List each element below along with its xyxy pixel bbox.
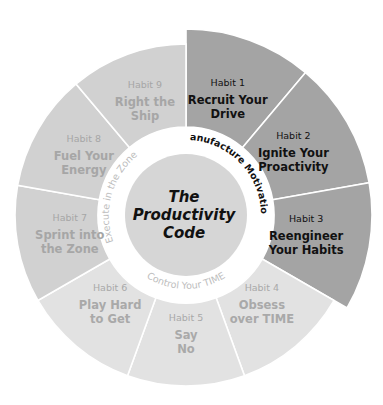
habit-title-line: Say — [174, 328, 198, 342]
habit-number: Habit 2 — [276, 130, 310, 141]
habit-number: Habit 1 — [211, 77, 245, 88]
habit-title-line: Right the — [115, 95, 175, 109]
habit-title-line: Ship — [131, 109, 160, 123]
center-title-line: The — [168, 188, 199, 206]
habit-title-line: Energy — [61, 163, 107, 177]
habit-number: Habit 6 — [93, 282, 127, 293]
habit-number: Habit 7 — [53, 212, 87, 223]
productivity-wheel: TheProductivityCode Manufacture Motivati… — [0, 0, 383, 405]
habit-number: Habit 4 — [245, 282, 279, 293]
habit-title-line: Fuel Your — [54, 149, 115, 163]
habit-title-line: Drive — [210, 107, 245, 121]
habit-title-line: the Zone — [41, 242, 99, 256]
habit-number: Habit 5 — [169, 312, 203, 323]
habit-title-line: Reengineer — [269, 229, 344, 243]
habit-title-line: No — [177, 342, 195, 356]
habit-number: Habit 8 — [67, 133, 101, 144]
habit-title-line: Your Habits — [268, 243, 344, 257]
habit-title-line: over TIME — [230, 312, 294, 326]
center-title-line: Code — [163, 224, 205, 242]
habit-title-line: Obsess — [239, 298, 285, 312]
habit-number: Habit 9 — [128, 79, 162, 90]
habit-title-line: to Get — [90, 312, 131, 326]
habit-number: Habit 3 — [289, 213, 323, 224]
habit-title-line: Recruit Your — [188, 93, 268, 107]
habit-title-line: Play Hard — [79, 298, 142, 312]
center-title-line: Productivity — [133, 206, 237, 224]
habit-title-line: Proactivity — [258, 160, 329, 174]
habit-title-line: Ignite Your — [258, 146, 329, 160]
habit-title-line: Sprint into — [35, 228, 104, 242]
